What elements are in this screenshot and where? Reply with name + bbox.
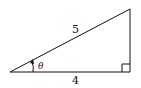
right-triangle-diagram: 5 4 θ: [0, 0, 141, 88]
triangle: [10, 9, 130, 72]
angle-label: θ: [38, 61, 44, 71]
hypotenuse-label: 5: [72, 23, 79, 36]
right-angle-marker: [122, 64, 130, 72]
adjacent-label: 4: [72, 74, 79, 87]
